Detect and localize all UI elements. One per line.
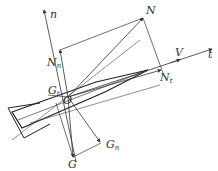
n-parallelogram-side (143, 18, 163, 73)
t-axis (68, 49, 212, 97)
label-N: N (145, 4, 156, 17)
nt-component (68, 70, 161, 97)
label-G: G (68, 158, 77, 171)
label-n-axis: n (50, 8, 57, 21)
g-parallelogram-side (73, 143, 101, 157)
label-Nt: Nt (159, 71, 173, 85)
label-O: O (63, 94, 72, 107)
label-t-axis: t (208, 48, 213, 61)
label-V: V (175, 46, 184, 59)
n-parallelogram-side (60, 18, 143, 50)
force-diagram: n t N V O G Nn Nt Gn Gt (0, 0, 218, 171)
label-Gn: Gn (106, 138, 120, 152)
label-Nn: Nn (46, 56, 62, 70)
n-force-vector (68, 18, 143, 97)
label-Gt: Gt (48, 84, 60, 98)
reference-line (12, 40, 140, 140)
velocity-arrow (170, 60, 180, 64)
